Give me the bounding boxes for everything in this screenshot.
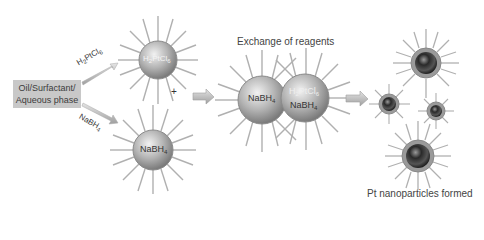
exchange-right-bottom-label: NaBH4 [290,100,317,111]
start-box-line2: Aqueous phase [13,94,81,106]
exchange-right-top-label: H2PtCl6 [289,86,319,97]
arrow-up-to-h2ptcl6 [82,63,118,85]
arrow-to-exchange [193,89,214,104]
start-box-line1: Oil/Surfactant/ [13,82,81,94]
plus-sign: + [171,86,177,97]
start-phase-box: Oil/Surfactant/ Aqueous phase [13,80,81,108]
result-caption: Pt nanoparticles formed [367,188,473,199]
micelle-label-h2ptcl6: H2PtCl6 [143,54,171,64]
micelle-label-nabh4: NaBH4 [140,144,167,155]
pt-nanoparticle-large-bottom [385,121,451,190]
arrow-to-nanoparticles [346,91,368,106]
exchange-title: Exchange of reagents [237,36,334,47]
pt-nanoparticle-small-left [369,84,410,124]
exchange-micelle-pair [215,48,352,152]
pt-nanoparticle-small-right [418,93,454,129]
pt-nanoparticle-large-top [393,29,459,98]
exchange-left-label: NaBH4 [248,93,275,104]
